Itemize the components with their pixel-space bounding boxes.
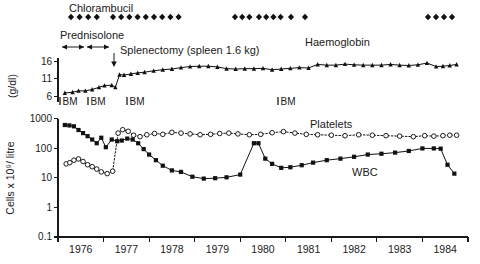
platelets-data-point xyxy=(281,129,286,134)
chlorambucil-dose-diamond xyxy=(425,14,431,21)
platelets-data-point xyxy=(217,131,222,136)
prednisolone-arrow-bars xyxy=(62,44,109,49)
wbc-data-point xyxy=(279,166,283,170)
chlorambucil-annotation: Chlorambucil xyxy=(68,2,455,20)
chlorambucil-dose-diamond xyxy=(441,14,447,21)
platelets-data-point xyxy=(99,170,104,175)
wbc-data-point xyxy=(352,155,356,159)
wbc-data-point xyxy=(213,176,217,180)
haemoglobin-y-tick-label: 11 xyxy=(42,73,53,84)
platelets-data-point xyxy=(198,132,203,137)
chlorambucil-dose-diamond xyxy=(159,14,165,21)
wbc-data-point xyxy=(67,123,71,127)
wbc-data-point xyxy=(154,158,158,162)
haemoglobin-y-axis: 16116 xyxy=(41,56,58,102)
wbc-data-point xyxy=(252,141,256,145)
haemoglobin-line xyxy=(65,63,457,93)
chlorambucil-dose-diamond xyxy=(263,14,269,21)
platelets-data-point xyxy=(270,130,275,135)
prednisolone-annotation: Prednisolone xyxy=(60,29,124,50)
wbc-data-point xyxy=(104,145,108,149)
platelets-data-point xyxy=(315,132,320,137)
platelets-data-point xyxy=(384,133,389,138)
chlorambucil-dose-diamond xyxy=(288,14,294,21)
chlorambucil-dose-diamond xyxy=(232,14,238,21)
wbc-data-point xyxy=(393,151,397,155)
haemoglobin-series xyxy=(63,61,459,95)
chlorambucil-dose-diamond xyxy=(278,14,284,21)
wbc-data-point xyxy=(420,146,424,150)
platelets-data-point xyxy=(76,157,81,162)
chlorambucil-dose-diamond xyxy=(167,14,173,21)
haemoglobin-axis-title: (g/dl) xyxy=(6,74,18,98)
wbc-data-point xyxy=(147,152,151,156)
wbc-data-point xyxy=(81,131,85,135)
cell-counts-y-tick-label: 100 xyxy=(35,143,52,154)
platelets-data-point xyxy=(422,133,427,138)
platelets-data-point xyxy=(258,132,263,137)
platelets-data-point xyxy=(116,131,121,136)
platelets-data-point xyxy=(188,132,193,137)
x-axis-year-label: 1980 xyxy=(251,243,275,255)
wbc-data-point xyxy=(366,152,370,156)
wbc-data-point xyxy=(90,137,94,141)
haemoglobin-y-tick-label: 6 xyxy=(46,91,52,102)
wbc-data-point xyxy=(110,137,114,141)
wbc-data-point xyxy=(161,164,165,168)
platelets-data-point xyxy=(131,133,136,138)
wbc-data-point xyxy=(115,139,119,143)
chlorambucil-dose-diamond xyxy=(270,14,276,21)
chlorambucil-dose-diamond xyxy=(449,14,455,21)
chlorambucil-dose-diamond xyxy=(135,14,141,21)
chlorambucil-dose-diamond xyxy=(433,14,439,21)
wbc-data-point xyxy=(379,152,383,156)
platelets-data-point xyxy=(81,159,86,164)
splenectomy-label: Splenectomy (spleen 1.6 kg) xyxy=(120,44,259,56)
haemoglobin-y-tick-label: 16 xyxy=(41,56,53,67)
wbc-data-point xyxy=(432,146,436,150)
bone-marrow-label: BM xyxy=(130,96,145,107)
wbc-data-point xyxy=(120,138,124,142)
prednisolone-label: Prednisolone xyxy=(60,29,124,41)
platelets-data-point xyxy=(110,169,115,174)
platelets-data-point xyxy=(411,134,416,139)
platelets-series-label: Platelets xyxy=(310,118,353,130)
platelets-data-point xyxy=(138,134,143,139)
wbc-data-point xyxy=(338,157,342,161)
wbc-data-point xyxy=(95,141,99,145)
platelets-data-point xyxy=(170,130,175,135)
chart-canvas: Chlorambucil Prednisolone Splenectomy (s… xyxy=(0,0,480,264)
platelets-data-point xyxy=(304,132,309,137)
wbc-data-point xyxy=(131,137,135,141)
platelets-data-point xyxy=(145,132,150,137)
platelets-data-point xyxy=(356,132,361,137)
chlorambucil-label: Chlorambucil xyxy=(69,2,133,14)
wbc-data-point xyxy=(445,163,449,167)
chlorambucil-dose-diamond xyxy=(118,14,124,21)
platelets-data-point xyxy=(293,131,298,136)
wbc-data-point xyxy=(202,177,206,181)
chlorambucil-dose-diamond xyxy=(94,14,100,21)
platelets-data-point xyxy=(227,131,232,136)
splenectomy-annotation: Splenectomy (spleen 1.6 kg) xyxy=(111,44,259,67)
wbc-data-point xyxy=(439,147,443,151)
cell-counts-y-axis: 10001001010.1 xyxy=(30,113,58,242)
x-axis-year-label: 1981 xyxy=(297,243,321,255)
platelets-data-point xyxy=(208,132,213,137)
wbc-data-point xyxy=(190,175,194,179)
platelets-data-point xyxy=(126,129,131,134)
wbc-data-point xyxy=(325,158,329,162)
chlorambucil-diamond-markers xyxy=(68,14,455,21)
wbc-data-point xyxy=(256,141,260,145)
platelets-data-point xyxy=(94,167,99,172)
chlorambucil-dose-diamond xyxy=(110,14,116,21)
bone-marrow-label: BM xyxy=(91,96,106,107)
wbc-data-point xyxy=(72,124,76,128)
chlorambucil-dose-diamond xyxy=(239,14,245,21)
wbc-series-label: WBC xyxy=(352,166,378,178)
wbc-data-point xyxy=(224,175,228,179)
chlorambucil-dose-diamond xyxy=(77,14,83,21)
platelets-data-point xyxy=(85,162,90,167)
x-axis-year-label: 1984 xyxy=(434,243,458,255)
clinical-course-chart: Chlorambucil Prednisolone Splenectomy (s… xyxy=(0,0,480,264)
